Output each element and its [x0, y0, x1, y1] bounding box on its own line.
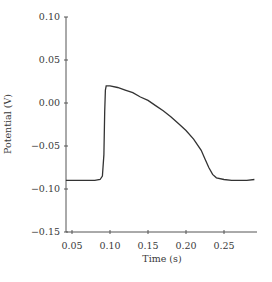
y-tick-label: 0.00	[39, 97, 60, 108]
y-tick-label: 0.05	[39, 54, 60, 65]
potential-trace	[66, 86, 255, 181]
x-axis-label: Time (s)	[142, 253, 181, 264]
x-tick-label: 0.10	[99, 240, 120, 251]
y-tick-label: −0.15	[31, 226, 60, 237]
x-tick-label: 0.05	[61, 240, 82, 251]
x-tick-label: 0.25	[213, 240, 234, 251]
x-tick-label: 0.15	[137, 240, 158, 251]
action-potential-chart: 0.100.050.00−0.05−0.10−0.15 0.050.100.15…	[0, 0, 272, 282]
y-tick-label: 0.10	[39, 11, 60, 22]
y-axis: 0.100.050.00−0.05−0.10−0.15	[31, 11, 68, 237]
y-tick-label: −0.10	[31, 183, 60, 194]
y-axis-label: Potential (V)	[2, 94, 13, 154]
x-tick-label: 0.20	[175, 240, 196, 251]
y-tick-label: −0.05	[31, 140, 60, 151]
x-axis: 0.050.100.150.200.25	[61, 230, 257, 251]
